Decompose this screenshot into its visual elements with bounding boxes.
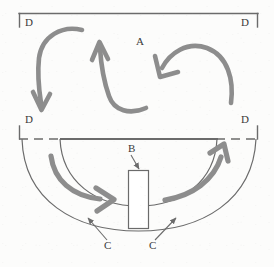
arrow-lower-right (165, 144, 228, 200)
arrow-lower-left (51, 156, 114, 211)
label-c-left: C (104, 240, 111, 251)
label-d-bottom-left: D (25, 114, 33, 125)
label-a: A (136, 36, 144, 47)
valve-b-rect (129, 171, 149, 229)
label-d-top-left: D (25, 17, 33, 28)
arrow-upper-centre (92, 42, 146, 111)
label-d-top-right: D (241, 17, 249, 28)
label-c-right: C (149, 240, 156, 251)
label-d-bottom-right: D (241, 114, 249, 125)
arrow-upper-left (33, 29, 82, 110)
c-right-leader-line (155, 218, 176, 240)
figure-canvas: D D D D A B C C (0, 0, 274, 267)
b-leader-line (131, 155, 139, 169)
label-b: B (128, 143, 135, 154)
arrow-upper-right (155, 46, 232, 103)
c-left-leader-line (88, 218, 107, 240)
